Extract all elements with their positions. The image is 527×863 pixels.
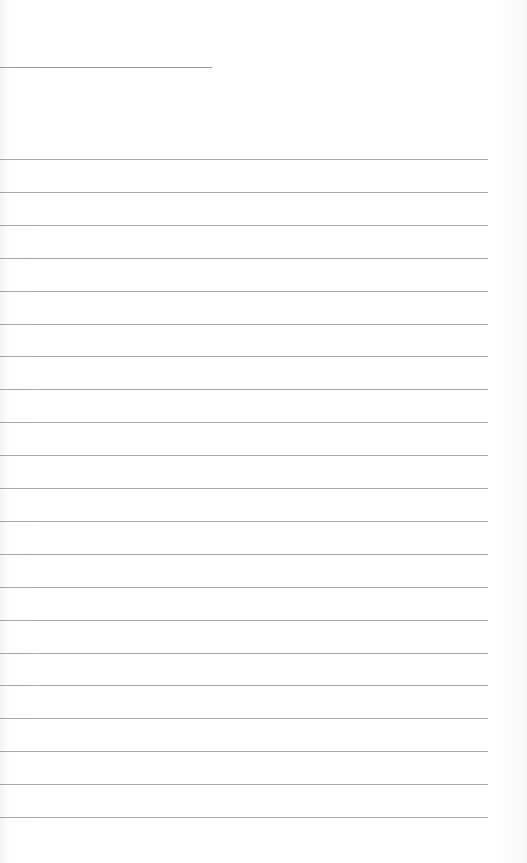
lined-paper-page [0, 0, 527, 863]
ruled-line [0, 620, 488, 621]
ruled-line [0, 685, 488, 686]
ruled-line [0, 784, 488, 785]
ruled-line [0, 718, 488, 719]
ruled-line [0, 258, 488, 259]
ruled-line [0, 554, 488, 555]
ruled-line [0, 455, 488, 456]
ruled-line [0, 422, 488, 423]
ruled-line [0, 521, 488, 522]
ruled-line [0, 324, 488, 325]
ruled-line [0, 291, 488, 292]
ruled-line [0, 817, 488, 818]
ruled-line [0, 225, 488, 226]
ruled-line [0, 159, 488, 160]
header-line [0, 67, 212, 68]
ruled-line [0, 192, 488, 193]
ruled-line [0, 751, 488, 752]
ruled-line [0, 488, 488, 489]
ruled-line [0, 389, 488, 390]
ruled-line [0, 356, 488, 357]
ruled-line [0, 587, 488, 588]
ruled-line [0, 653, 488, 654]
